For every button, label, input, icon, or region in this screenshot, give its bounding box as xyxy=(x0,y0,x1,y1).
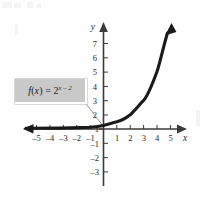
exponential-function-graph: –5 –4 –3 –2 –1 1 2 3 4 5 7 6 5 4 3 2 1 –… xyxy=(0,0,201,200)
x-tick-label: 4 xyxy=(155,133,160,143)
x-tick-label: –5 xyxy=(31,133,41,143)
y-tick-label: 5 xyxy=(93,67,97,77)
x-tick-label: –3 xyxy=(58,133,68,143)
function-label-text: f(x) = 2x – 2 xyxy=(28,84,72,96)
y-tick-label: 3 xyxy=(93,96,97,106)
scan-artifact xyxy=(196,110,200,126)
y-tick-label: –1 xyxy=(90,139,100,149)
x-tick-label: 3 xyxy=(142,133,146,143)
y-tick-label: 4 xyxy=(93,82,98,92)
y-axis-top-arrowhead xyxy=(99,22,108,32)
scan-artifact xyxy=(27,2,33,8)
scan-artifact xyxy=(14,3,21,8)
scan-artifact xyxy=(37,4,41,8)
y-tick-label: –2 xyxy=(90,153,100,163)
x-tick-label: –4 xyxy=(45,133,55,143)
curve-left-arrowhead xyxy=(24,124,34,133)
x-tick-label: 2 xyxy=(128,133,132,143)
y-axis-label: y xyxy=(90,22,96,32)
x-tick-label: –2 xyxy=(72,133,82,143)
y-tick-label: 7 xyxy=(93,39,97,49)
y-tick-label: –3 xyxy=(90,167,100,177)
scan-artifact xyxy=(2,2,12,8)
curve-arrowhead xyxy=(165,23,176,36)
x-axis-label: x xyxy=(182,133,188,143)
x-tick-label: 1 xyxy=(115,133,119,143)
scan-artifact xyxy=(15,24,18,35)
function-label-box: f(x) = 2x – 2 xyxy=(15,79,87,104)
y-tick-label: 6 xyxy=(93,53,97,63)
x-tick-label: 5 xyxy=(168,133,172,143)
